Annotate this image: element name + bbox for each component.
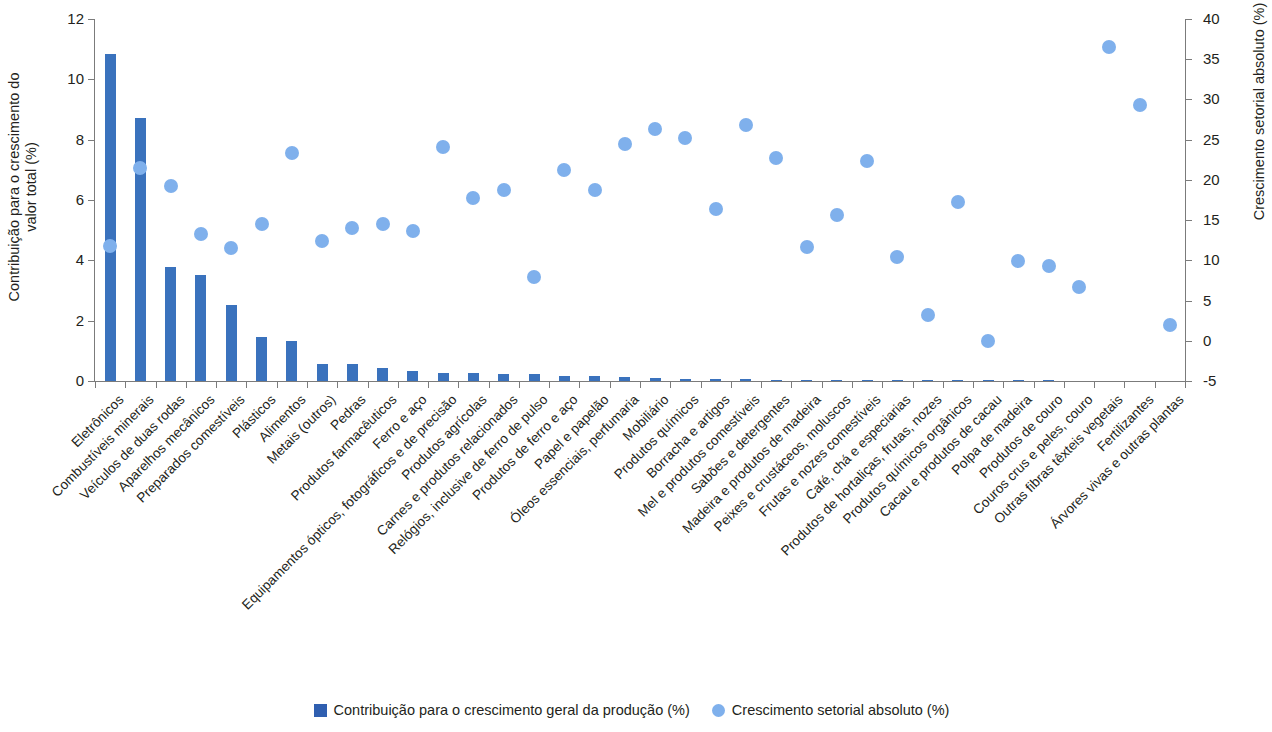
scatter-point [678,131,692,145]
left-tick-label: 12 [48,11,84,27]
left-axis-title: Contribuição para o crescimento do valor… [6,72,40,302]
chart-legend: Contribuição para o crescimento geral da… [0,702,1263,718]
right-tick-label: 30 [1203,91,1243,107]
scatter-point [224,241,238,255]
scatter-point [285,146,299,160]
scatter-point [951,195,965,209]
right-tick-label: 25 [1203,132,1243,148]
left-tick-mark [88,19,94,20]
left-tick-label: 8 [48,132,84,148]
scatter-point [133,161,147,175]
scatter-point [436,140,450,154]
scatter-point [1011,254,1025,268]
scatter-point [1102,40,1116,54]
left-tick-label: 6 [48,192,84,208]
left-tick-mark [88,79,94,80]
category-axis-labels: EletrônicosCombustíveis mineraisVeículos… [0,388,1263,688]
right-tick-mark [1186,180,1192,181]
left-tick-label: 0 [48,373,84,389]
right-tick-label: 35 [1203,51,1243,67]
scatter-point [588,183,602,197]
right-tick-mark [1186,19,1192,20]
right-tick-mark [1186,220,1192,221]
scatter-point [648,122,662,136]
right-tick-mark [1186,59,1192,60]
right-tick-mark [1186,260,1192,261]
legend-circle-icon [712,704,725,717]
left-tick-mark [88,321,94,322]
right-tick-label: 15 [1203,212,1243,228]
scatter-point [860,154,874,168]
left-tick-mark [88,381,94,382]
scatter-point [376,217,390,231]
right-axis-title: Crescimento setorial absoluto (%) [1251,0,1268,227]
right-tick-label: 10 [1203,252,1243,268]
scatter-point [618,137,632,151]
scatter-point [406,224,420,238]
left-tick-label: 2 [48,313,84,329]
legend-label-bar: Contribuição para o crescimento geral da… [334,702,690,718]
left-tick-mark [88,200,94,201]
left-tick-mark [88,140,94,141]
scatter-point [709,202,723,216]
scatter-point [345,221,359,235]
legend-square-icon [314,704,327,717]
scatter-point [800,240,814,254]
legend-label-scatter: Crescimento setorial absoluto (%) [732,702,950,718]
scatter-point [315,234,329,248]
legend-item-bar: Contribuição para o crescimento geral da… [314,702,690,718]
scatter-point [739,118,753,132]
scatter-point [830,208,844,222]
left-tick-mark [88,260,94,261]
scatter-point [255,217,269,231]
scatter-point [527,270,541,284]
scatter-point [194,227,208,241]
right-tick-mark [1186,99,1192,100]
scatter-point [769,151,783,165]
scatter-point [497,183,511,197]
right-tick-mark [1186,140,1192,141]
right-tick-label: 20 [1203,172,1243,188]
right-tick-label: 40 [1203,11,1243,27]
scatter-point [1133,98,1147,112]
scatter-point [164,179,178,193]
scatter-point [890,250,904,264]
scatter-point [466,191,480,205]
scatter-point [557,163,571,177]
scatter-point [103,239,117,253]
left-tick-label: 4 [48,252,84,268]
legend-item-scatter: Crescimento setorial absoluto (%) [712,702,950,718]
left-tick-label: 10 [48,71,84,87]
